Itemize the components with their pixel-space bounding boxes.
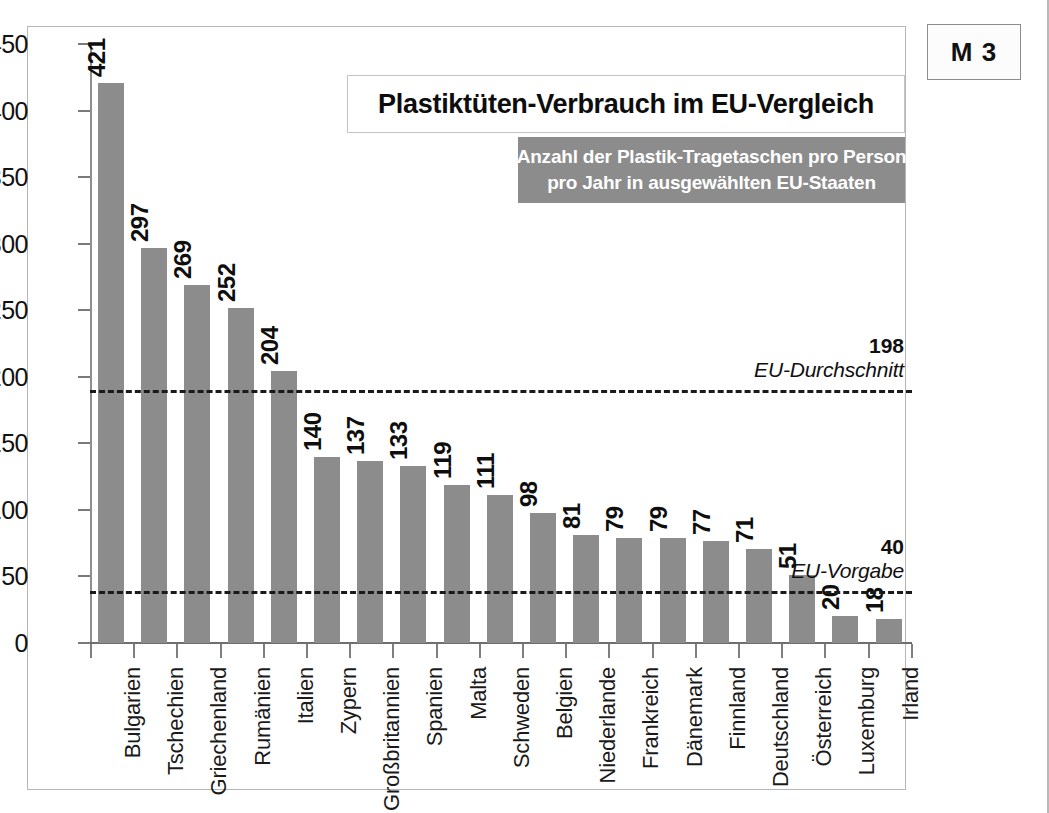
y-tick-mark [78,110,90,112]
x-tick-mark [479,644,481,658]
x-axis-label: Luxemburg [854,667,880,775]
bar: 133 [400,466,426,643]
chart-subtitle-line-1: Anzahl der Plastik-Tragetaschen pro Pers… [517,144,907,170]
bar: 119 [444,485,470,643]
bar: 98 [530,513,556,643]
x-axis-label: Finnland [725,667,751,750]
chart-container: 050100150200250300350400450 421297269252… [27,26,906,790]
x-tick-mark [436,644,438,658]
x-axis-label: Großbritannien [379,667,405,811]
x-axis-label: Österreich [811,667,837,766]
y-tick-label: 350 [0,163,28,192]
x-axis-label: Bulgarien [120,667,146,758]
x-axis-label: Irland [898,667,924,721]
y-tick-label: 450 [0,30,28,59]
y-tick-label: 50 [0,562,28,591]
x-axis-label: Belgien [552,667,578,739]
x-tick-mark [608,644,610,658]
y-tick-label: 400 [0,96,28,125]
x-tick-mark [306,644,308,658]
bar: 140 [314,457,340,643]
x-axis-label: Spanien [422,667,448,746]
x-tick-mark [824,644,826,658]
x-tick-mark [565,644,567,658]
bar: 111 [487,495,513,643]
x-tick-mark [868,644,870,658]
bar: 204 [271,371,297,643]
x-tick-mark [652,644,654,658]
y-tick-mark [78,509,90,511]
chart-title: Plastiktüten-Verbrauch im EU-Vergleich [378,89,874,120]
bar: 51 [789,575,815,643]
bar: 137 [357,461,383,643]
bar: 18 [876,619,902,643]
x-axis-label: Italien [293,667,319,724]
y-axis-line [90,44,92,643]
y-tick-label: 150 [0,429,28,458]
x-tick-mark [263,644,265,658]
x-axis-label: Tschechien [163,667,189,775]
x-tick-mark [133,644,135,658]
reference-line-eu-durchschnitt [90,390,912,393]
chart-subtitle-box: Anzahl der Plastik-Tragetaschen pro Pers… [518,137,905,203]
y-tick-label: 200 [0,362,28,391]
bar-value-label: 137 [342,416,370,455]
bar: 297 [141,248,167,643]
y-tick-mark [78,642,90,644]
reference-label: EU-Vorgabe [791,559,904,583]
bar: 421 [98,83,124,643]
bar-value-label: 79 [645,506,673,532]
plot-area: 050100150200250300350400450 421297269252… [28,27,907,791]
x-axis-label: Deutschland [768,667,794,787]
bar-value-label: 119 [429,441,457,478]
x-tick-mark [911,644,913,658]
x-tick-mark [176,644,178,658]
reference-value: 40 [791,535,904,559]
y-tick-mark [78,243,90,245]
y-tick-label: 100 [0,495,28,524]
chart-title-box: Plastiktüten-Verbrauch im EU-Vergleich [347,75,905,133]
bar-value-label: 252 [213,263,241,302]
chart-subtitle-line-2: pro Jahr in ausgewählten EU-Staaten [547,170,876,196]
bar-value-label: 20 [817,585,845,611]
y-tick-label: 250 [0,296,28,325]
x-axis-label: Malta [466,667,492,720]
x-tick-mark [220,644,222,658]
bar-value-label: 204 [256,327,284,366]
x-tick-mark [392,644,394,658]
x-tick-mark [781,644,783,658]
y-tick-mark [78,376,90,378]
bar: 71 [746,549,772,644]
bar: 269 [184,285,210,643]
bar: 20 [832,616,858,643]
x-axis-label: Rumänien [250,667,276,766]
bar-value-label: 98 [515,481,543,507]
reference-annotation: 40EU-Vorgabe [791,535,904,582]
reference-label: EU-Durchschnitt [754,358,904,382]
bar-value-label: 71 [731,517,759,543]
y-tick-label: 0 [0,629,28,658]
x-axis-label: Niederlande [595,667,621,783]
reference-value: 198 [754,334,904,358]
bar-value-label: 133 [385,421,413,460]
bar-value-label: 77 [688,509,716,535]
x-tick-mark [90,644,92,658]
bar-value-label: 421 [83,38,111,77]
x-tick-mark [522,644,524,658]
x-tick-mark [349,644,351,658]
x-axis-label: Dänemark [682,667,708,767]
y-tick-mark [78,176,90,178]
x-axis-label: Schweden [509,667,535,768]
x-axis-label: Frankreich [638,667,664,769]
bar-value-label: 140 [299,412,327,451]
bar-value-label: 111 [472,453,500,489]
bar-value-label: 297 [126,203,154,242]
x-tick-mark [695,644,697,658]
bar-value-label: 81 [558,503,586,529]
y-tick-mark [78,575,90,577]
y-tick-mark [78,309,90,311]
bar-value-label: 79 [601,506,629,532]
reference-annotation: 198EU-Durchschnitt [754,334,904,381]
x-tick-mark [738,644,740,658]
x-axis-label: Zypern [336,667,362,734]
